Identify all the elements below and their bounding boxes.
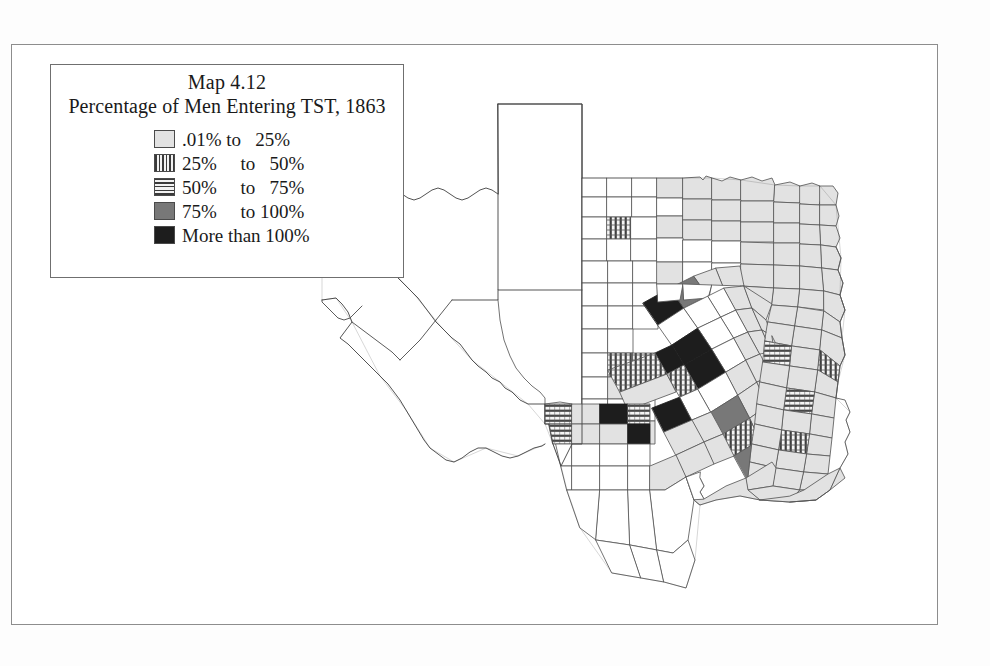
legend-swatch-vertical-stripes-icon (154, 154, 175, 172)
legend-entry-3: 50% to 75% (154, 175, 403, 199)
legend-entries: .01% to 25% 25% to 50% 50% to 75% 75% to… (51, 127, 403, 247)
legend-entry-4: 75% to 100% (154, 199, 403, 223)
legend-entry-2: 25% to 50% (154, 151, 403, 175)
legend-title-line1: Map 4.12 (51, 71, 403, 95)
legend-entry-1: .01% to 25% (154, 127, 403, 151)
legend-label-5: More than 100% (182, 226, 310, 245)
legend-swatch-black-solid-icon (154, 226, 175, 244)
map-legend: Map 4.12 Percentage of Men Entering TST,… (50, 64, 404, 278)
legend-label-1: .01% to 25% (182, 130, 290, 149)
legend-label-2: 25% to 50% (182, 154, 304, 173)
legend-entry-5: More than 100% (154, 223, 403, 247)
legend-title: Map 4.12 Percentage of Men Entering TST,… (51, 65, 403, 118)
legend-swatch-dark-gray-solid-icon (154, 202, 175, 220)
legend-swatch-horizontal-stripes-icon (154, 178, 175, 196)
legend-label-4: 75% to 100% (182, 202, 304, 221)
legend-label-3: 50% to 75% (182, 178, 304, 197)
legend-swatch-light-gray-solid-icon (154, 130, 175, 148)
legend-title-line2: Percentage of Men Entering TST, 1863 (51, 95, 403, 119)
